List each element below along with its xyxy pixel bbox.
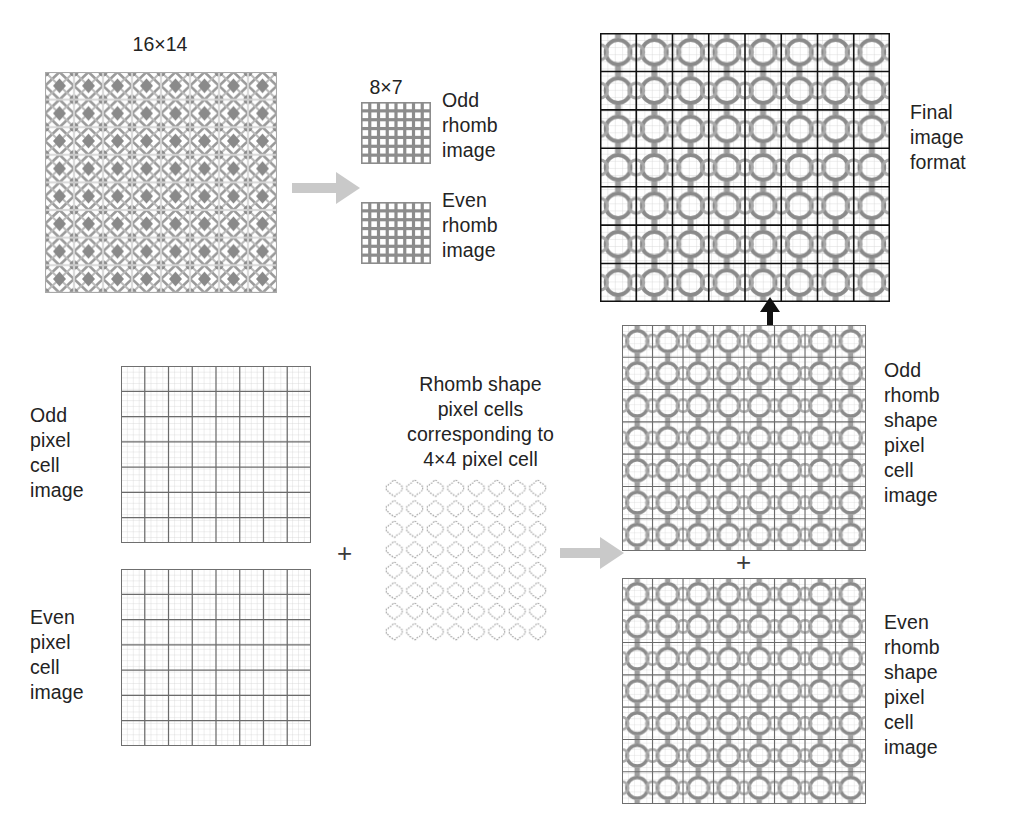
even-rhomb-shape-grid-svg [622, 578, 866, 804]
odd-rhomb-shape-pixel-cell-image-label: Odd rhomb shape pixel cell image [884, 358, 940, 508]
odd-rhomb-thumb-panel [361, 102, 431, 164]
odd-rhomb-shape-grid-svg [622, 325, 866, 551]
even-rhomb-thumb-panel [361, 202, 431, 264]
plus-sign-middle: + [337, 540, 352, 566]
final-image-panel [600, 33, 890, 302]
rhomb-shape-note-label: Rhomb shape pixel cells corresponding to… [383, 372, 578, 472]
even-rhomb-image-label: Even rhomb image [442, 188, 498, 263]
odd-pixel-cell-grid-svg [121, 366, 311, 543]
even-rhomb-shape-grid-panel [622, 578, 866, 804]
source-rhomb-pattern-svg [45, 72, 277, 293]
rhomb-cell-tile-svg [384, 478, 548, 642]
even-rhomb-thumb-svg [361, 202, 431, 264]
even-rhomb-shape-pixel-cell-image-label: Even rhomb shape pixel cell image [884, 610, 940, 760]
rhomb-cell-tile-panel [384, 478, 548, 642]
even-pixel-cell-grid-svg [121, 569, 311, 746]
plus-sign-right: + [736, 549, 751, 575]
even-pixel-cell-image-label: Even pixel cell image [30, 605, 84, 705]
final-image-format-label: Final image format [910, 100, 966, 175]
even-pixel-cell-grid-panel [121, 569, 311, 746]
sub-size-label: 8×7 [356, 75, 416, 99]
odd-rhomb-thumb-svg [361, 102, 431, 164]
final-image-svg [600, 33, 890, 302]
odd-pixel-cell-grid-panel [121, 366, 311, 543]
odd-rhomb-image-label: Odd rhomb image [442, 88, 498, 163]
arrow-compose-right-icon [560, 533, 626, 573]
odd-pixel-cell-image-label: Odd pixel cell image [30, 403, 84, 503]
source-size-label: 16×14 [115, 32, 205, 56]
odd-rhomb-shape-grid-panel [622, 325, 866, 551]
source-rhomb-pattern-panel [45, 72, 277, 293]
arrow-split-right-icon [292, 168, 362, 208]
